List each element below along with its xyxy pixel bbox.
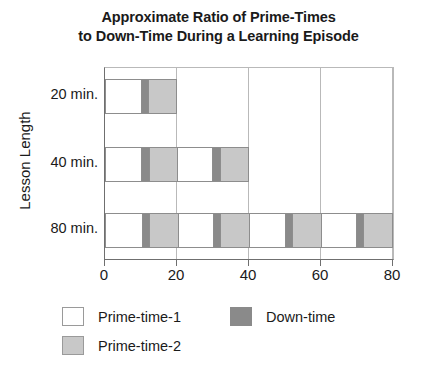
legend-label-down-time: Down-time: [266, 309, 335, 325]
x-axis-tickmark-0: [104, 259, 105, 266]
bar-segment-prime-time-2: [292, 214, 321, 247]
legend-swatch-down-time: [230, 307, 252, 326]
bar-segment-down-time: [213, 214, 220, 247]
y-axis-tick-label-20min: 20 min.: [32, 86, 98, 102]
y-axis-tick-label-40min: 40 min.: [32, 154, 98, 170]
legend-label-prime-time-1: Prime-time-1: [98, 309, 181, 325]
bar-segment-prime-time-2: [148, 80, 176, 113]
legend-item-prime-time-2: Prime-time-2: [62, 336, 181, 355]
bar-segment-prime-time-2: [149, 148, 177, 181]
bar-segment-down-time: [141, 80, 148, 113]
x-axis-tick-label-40: 40: [228, 266, 268, 283]
bar-20min: [105, 79, 177, 114]
bar-segment-prime-time-1: [106, 148, 141, 181]
bar-80min: [105, 213, 393, 248]
chart-title-line-2: to Down-Time During a Learning Episode: [0, 27, 437, 46]
legend: Prime-time-1 Prime-time-2 Down-time: [62, 307, 392, 365]
legend-swatch-prime-time-2: [62, 336, 84, 355]
y-axis-tick-label-80min: 80 min.: [32, 220, 98, 236]
bar-segment-prime-time-1: [106, 214, 142, 247]
chart-title: Approximate Ratio of Prime-Times to Down…: [0, 8, 437, 46]
x-axis-tickmark-60: [320, 259, 321, 266]
bar-segment-down-time: [141, 148, 148, 181]
chart-container: Approximate Ratio of Prime-Times to Down…: [0, 0, 437, 377]
bar-40min: [105, 147, 249, 182]
x-axis-tickmark-20: [176, 259, 177, 266]
bar-segment-down-time: [285, 214, 292, 247]
bar-segment-down-time: [142, 214, 149, 247]
x-axis-tickmark-80: [392, 259, 393, 266]
legend-item-down-time: Down-time: [230, 307, 335, 326]
bar-segment-prime-time-1: [321, 214, 357, 247]
legend-label-prime-time-2: Prime-time-2: [98, 338, 181, 354]
bar-segment-prime-time-1: [178, 214, 214, 247]
bar-segment-prime-time-1: [177, 148, 213, 181]
x-axis-tick-label-60: 60: [300, 266, 340, 283]
bar-segment-down-time: [356, 214, 363, 247]
legend-swatch-prime-time-1: [62, 307, 84, 326]
x-axis-tickmark-40: [248, 259, 249, 266]
plot-area: [104, 67, 394, 260]
bar-segment-prime-time-1: [106, 80, 141, 113]
x-axis-tick-label-80: 80: [372, 266, 412, 283]
x-axis-tick-label-0: 0: [84, 266, 124, 283]
legend-item-prime-time-1: Prime-time-1: [62, 307, 181, 326]
bar-segment-prime-time-2: [363, 214, 392, 247]
bar-segment-prime-time-2: [220, 214, 249, 247]
bar-segment-prime-time-2: [220, 148, 248, 181]
y-axis-label: Lesson Length: [16, 86, 33, 236]
bar-segment-prime-time-1: [249, 214, 285, 247]
bar-segment-down-time: [212, 148, 219, 181]
bar-segment-prime-time-2: [149, 214, 178, 247]
chart-title-line-1: Approximate Ratio of Prime-Times: [0, 8, 437, 27]
x-axis-tick-label-20: 20: [156, 266, 196, 283]
